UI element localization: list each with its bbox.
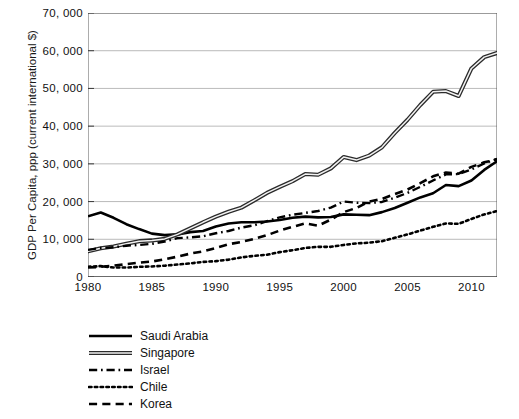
- series-line-fill: [88, 53, 497, 251]
- series-line-outline: [88, 53, 497, 251]
- y-axis-tick-labels: 010, 00020, 00030, 00040, 00050, 00060, …: [0, 0, 83, 419]
- x-tick-label: 1980: [75, 281, 102, 293]
- dotted-line-swatch: [88, 380, 133, 394]
- x-tick-label: 2000: [330, 281, 357, 293]
- series-saudi-arabia: [88, 161, 497, 235]
- double-line-swatch: [88, 346, 133, 360]
- y-tick-label: 10, 000: [43, 233, 83, 245]
- line-chart-figure: GDP Per Capita, ppp (current internation…: [0, 0, 519, 419]
- chart-legend: Saudi ArabiaSingaporeIsraelChileKorea: [88, 327, 318, 412]
- y-tick-label: 20, 000: [43, 196, 83, 208]
- solid-line-swatch: [88, 329, 133, 343]
- legend-item-chile[interactable]: Chile: [88, 378, 318, 395]
- series-line: [88, 161, 497, 235]
- y-tick-label: 40, 000: [43, 120, 83, 132]
- series-israel: [88, 159, 497, 250]
- y-tick-label: 70, 000: [43, 7, 83, 19]
- y-tick-label: 60, 000: [43, 45, 83, 57]
- dashed-line-swatch: [88, 397, 133, 411]
- legend-label: Chile: [140, 380, 167, 394]
- legend-item-israel[interactable]: Israel: [88, 361, 318, 378]
- x-tick-label: 2010: [458, 281, 485, 293]
- legend-item-korea[interactable]: Korea: [88, 395, 318, 412]
- dash-dot-line-swatch: [88, 363, 133, 377]
- legend-label: Israel: [140, 363, 169, 377]
- y-tick-label: 30, 000: [43, 158, 83, 170]
- x-tick-label: 2005: [394, 281, 421, 293]
- series-line: [88, 159, 497, 250]
- x-axis-tick-labels: 1980198519901995200020052010: [0, 281, 519, 303]
- series-singapore: [88, 53, 497, 251]
- x-tick-label: 1990: [202, 281, 229, 293]
- x-tick-label: 1995: [266, 281, 293, 293]
- plot-area: [88, 13, 497, 277]
- plot-svg: [88, 13, 497, 277]
- legend-label: Singapore: [140, 346, 195, 360]
- x-tick-label: 1985: [139, 281, 166, 293]
- y-tick-label: 50, 000: [43, 82, 83, 94]
- legend-item-saudi-arabia[interactable]: Saudi Arabia: [88, 327, 318, 344]
- legend-label: Korea: [140, 397, 172, 411]
- legend-label: Saudi Arabia: [140, 329, 208, 343]
- legend-item-singapore[interactable]: Singapore: [88, 344, 318, 361]
